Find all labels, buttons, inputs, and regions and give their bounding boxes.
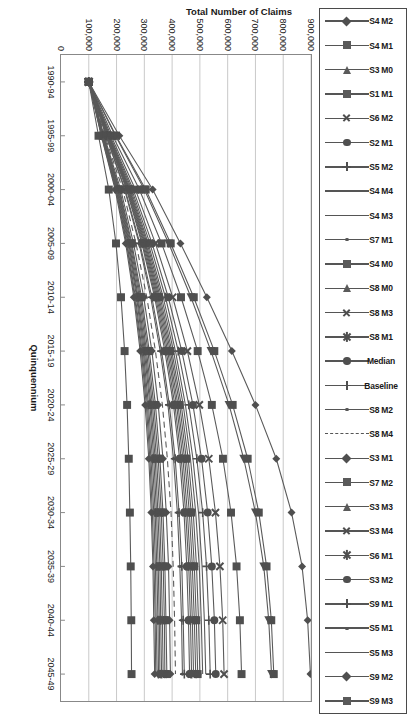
legend-label: S8 M1 [369,332,393,342]
data-point-marker [128,670,136,678]
data-point-marker [203,293,211,301]
legend-label: S8 M0 [369,283,393,293]
legend-item: S8 M3 [320,300,406,324]
legend-key [325,665,369,689]
data-point-marker [227,509,235,517]
legend-label: S9 M3 [369,696,393,706]
legend-key [325,179,369,203]
circle-marker-icon [343,576,351,584]
data-point-marker [288,509,296,517]
legend-item: S8 M2 [320,398,406,422]
legend-key [325,592,369,616]
legend-key [325,616,369,640]
data-point-marker [176,511,179,514]
series-line [89,82,185,674]
legend-label: S7 M1 [369,235,393,245]
legend-key [325,155,369,179]
legend-item: S8 M0 [320,276,406,300]
data-point-marker [177,293,185,301]
legend-line-sample [325,190,369,191]
y-tick-label: 300,000 [139,18,149,51]
legend-label: S8 M2 [369,405,393,415]
y-tick-label: 100,000 [84,18,94,51]
x-tick-label: 2005-09 [46,227,56,260]
legend-key [325,106,369,130]
data-point-marker [194,347,202,355]
legend-label: S3 M0 [369,65,393,75]
legend-key [325,640,369,664]
legend-item: Median [320,349,406,373]
square-marker-icon [343,41,351,49]
series-svg [61,55,311,701]
legend-key [325,422,369,446]
legend-label: S6 M1 [369,550,393,560]
data-point-marker [127,562,135,570]
legend-item: S7 M2 [320,470,406,494]
x-tick-label: 2000-04 [46,173,56,206]
legend-key [325,446,369,470]
legend-label: S5 M3 [369,647,393,657]
x-axis-title: Quinquennium [29,54,40,702]
legend-label: S5 M2 [369,162,393,172]
star-marker-icon [342,550,352,560]
data-point-marker [158,349,161,352]
square-marker-icon [343,478,351,486]
legend-item: S5 M3 [320,640,406,664]
legend-item: S3 M2 [320,567,406,591]
legend-key [325,325,369,349]
data-point-marker [166,403,169,406]
legend-label: S5 M1 [369,623,393,633]
data-point-marker [238,670,246,678]
legend-label: S2 M1 [369,138,393,148]
x-tick-label: 2015-19 [46,335,56,368]
legend-label: S3 M3 [369,502,393,512]
data-point-marker [304,616,311,624]
x-tick-label: 1995-99 [46,119,56,152]
legend-key [325,33,369,57]
data-point-marker [126,509,134,517]
legend-item: S1 M1 [320,82,406,106]
diamond-marker-icon [342,16,352,26]
data-point-marker [112,239,120,247]
data-point-marker [180,619,183,622]
dot-marker-icon [345,408,348,411]
data-point-marker [85,78,93,86]
series-line [89,82,176,674]
data-point-marker [95,132,103,140]
data-point-marker [123,401,131,409]
data-point-marker [219,455,227,463]
series-line [89,82,190,674]
legend-key [325,470,369,494]
y-tick-label: 200,000 [112,18,122,51]
triangle-marker-icon [343,284,351,292]
data-point-marker [272,455,280,463]
legend-line-sample [325,433,369,435]
square-marker-icon [343,260,351,268]
legend-line-sample [325,215,369,216]
plus-marker-icon [343,381,352,390]
legend-label: Baseline [364,380,397,390]
x-tick-label: 2035-39 [46,550,56,583]
y-tick-label: 800,000 [278,18,288,51]
legend-label: S3 M4 [369,526,393,536]
legend-item: S7 M1 [320,228,406,252]
x-tick-label: 2025-29 [46,442,56,475]
legend-label: S8 M4 [369,429,393,439]
data-point-marker [117,293,125,301]
legend-label: S1 M1 [369,89,393,99]
legend-item: S9 M3 [320,689,406,713]
legend-key [325,9,369,33]
legend-label: S3 M2 [369,575,393,585]
rotated-chart-canvas: S4 M2S4 M1S3 M0S1 M1S6 M2S2 M1S5 M2S4 M4… [0,0,412,725]
y-tick-label: 500,000 [195,18,205,51]
y-tick-label: 0 [56,46,66,51]
data-point-marker [228,347,236,355]
data-point-marker [298,562,306,570]
legend-item: S9 M1 [320,592,406,616]
legend-key [325,398,369,422]
legend-item: S6 M1 [320,543,406,567]
y-tick-label: 900,000 [306,18,316,51]
data-point-marker [306,670,311,678]
legend-item: S6 M2 [320,106,406,130]
y-tick-label: 600,000 [223,18,233,51]
